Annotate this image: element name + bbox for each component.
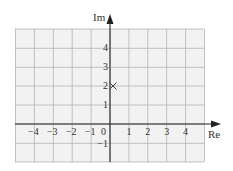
y-tick-label: 1 xyxy=(103,99,108,110)
imaginary-axis-arrow-icon xyxy=(107,14,114,24)
y-tick-label: 2 xyxy=(103,80,108,91)
x-tick-label: 1 xyxy=(126,126,131,137)
x-tick-label: 3 xyxy=(164,126,169,137)
real-axis-label: Re xyxy=(208,128,220,140)
y-tick-label: −1 xyxy=(97,138,108,149)
x-tick-label: 4 xyxy=(183,126,188,137)
imaginary-axis-label: Im xyxy=(93,11,106,23)
argand-diagram: Im Re 0 −4−3−2−11234 4321−1 xyxy=(0,0,233,171)
real-axis-arrow-icon xyxy=(211,121,221,128)
x-tick-label: −2 xyxy=(66,126,77,137)
x-tick-label: 2 xyxy=(145,126,150,137)
x-tick-label: −3 xyxy=(47,126,58,137)
y-tick-label: 4 xyxy=(103,42,108,53)
x-tick-label: −4 xyxy=(28,126,39,137)
y-tick-label: 3 xyxy=(103,61,108,72)
origin-label: 0 xyxy=(101,126,106,137)
x-tick-label: −1 xyxy=(85,126,96,137)
